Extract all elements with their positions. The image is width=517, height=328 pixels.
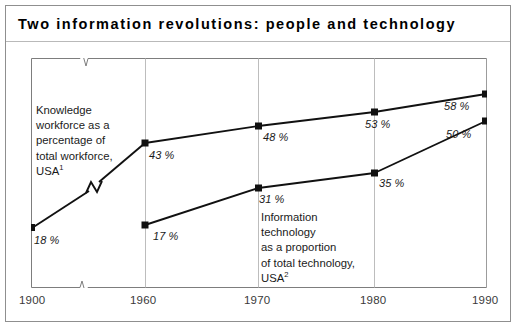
annotation-line: percentage of — [36, 133, 113, 148]
data-label-1960-upper: 43 % — [149, 149, 174, 161]
data-label-1960-lower: 17 % — [153, 230, 178, 242]
annotation-knowledge-workforce: Knowledge workforce as a percentage of t… — [36, 103, 113, 179]
xtick-label-1970: 1970 — [244, 294, 270, 306]
xtick-label-1990: 1990 — [472, 294, 498, 306]
data-label-1980-upper: 53 % — [365, 118, 390, 130]
data-label-1970-lower: 31 % — [259, 193, 284, 205]
marker-1980-lower — [371, 170, 378, 177]
marker-1900-upper — [31, 224, 35, 231]
annotation-line: as a proportion — [261, 240, 355, 255]
data-label-1980-lower: 35 % — [379, 177, 404, 189]
annotation-line: technology — [261, 225, 355, 240]
footnote-marker-2: 2 — [284, 270, 288, 279]
annotation-line: Knowledge — [36, 103, 113, 118]
segment-1970-1980-lower — [259, 173, 375, 188]
xtick-label-1960: 1960 — [130, 294, 156, 306]
marker-1970-upper — [255, 123, 262, 130]
data-label-1970-upper: 48 % — [263, 131, 288, 143]
marker-1990-lower — [482, 118, 487, 125]
segment-1970-1980 — [259, 112, 375, 126]
annotation-line-with-footnote: USA1 — [36, 164, 113, 179]
annotation-line-with-footnote: USA2 — [261, 271, 355, 286]
annotation-line: Information — [261, 210, 355, 225]
marker-1980-upper — [371, 109, 378, 116]
data-label-1990-upper: 58 % — [444, 100, 469, 112]
axis-break-top-icon — [76, 58, 95, 66]
plot-area: 18 % 43 % 48 % 53 % 58 % 17 % 31 % 35 % … — [31, 58, 487, 288]
marker-1960-upper — [142, 140, 149, 147]
annotation-information-technology: Information technology as a proportion o… — [261, 210, 355, 286]
annotation-line: total workforce, — [36, 149, 113, 164]
data-label-1990-lower: 50 % — [446, 128, 471, 140]
title-divider — [6, 41, 510, 42]
xtick-label-1900: 1900 — [19, 294, 45, 306]
marker-1990-upper — [482, 91, 487, 98]
annotation-line: USA — [36, 165, 59, 177]
marker-1960-lower — [142, 222, 149, 229]
axis-break-bottom-icon — [76, 281, 95, 288]
data-label-1900-upper: 18 % — [34, 234, 59, 246]
annotation-line: of total technology, — [261, 256, 355, 271]
chart-figure: Two information revolutions: people and … — [0, 0, 517, 328]
segment-1960-1970-lower — [145, 188, 259, 225]
xtick-label-1980: 1980 — [360, 294, 386, 306]
annotation-line: USA — [261, 272, 284, 284]
annotation-line: workforce as a — [36, 118, 113, 133]
segment-1900-break — [32, 191, 89, 228]
segment-1960-1970 — [145, 126, 259, 143]
page-title: Two information revolutions: people and … — [18, 16, 456, 32]
marker-1970-lower — [255, 185, 262, 192]
footnote-marker-1: 1 — [59, 163, 63, 172]
